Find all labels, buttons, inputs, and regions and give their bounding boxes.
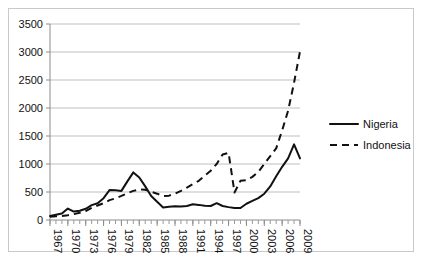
plot-area-wrapper: 0500100015002000250030003500196719701973…: [0, 0, 424, 267]
y-axis-tick-label: 3000: [19, 46, 43, 58]
chart-figure: 0500100015002000250030003500196719701973…: [0, 0, 424, 267]
x-axis-tick-label: 2006: [284, 229, 296, 253]
x-axis-tick-label: 2009: [302, 229, 314, 253]
x-axis-tick-label: 1982: [141, 229, 153, 253]
x-axis-tick-label: 1994: [213, 229, 225, 253]
x-axis-tick-label: 1979: [123, 229, 135, 253]
y-axis-tick-label: 3500: [19, 18, 43, 30]
x-axis-tick-label: 1973: [88, 229, 100, 253]
x-axis-tick-label: 1970: [70, 229, 82, 253]
x-axis-tick-label: 1988: [177, 229, 189, 253]
x-axis-tick-label: 1997: [231, 229, 243, 253]
x-axis-tick-label: 1985: [159, 229, 171, 253]
x-axis-tick-label: 2003: [266, 229, 278, 253]
x-axis-tick-label: 1967: [52, 229, 64, 253]
y-axis-tick-label: 500: [25, 186, 43, 198]
y-axis-tick-label: 2000: [19, 102, 43, 114]
y-axis-tick-label: 1000: [19, 158, 43, 170]
x-axis-tick-label: 1991: [195, 229, 207, 253]
line-chart: 0500100015002000250030003500196719701973…: [0, 0, 424, 267]
y-axis-tick-label: 2500: [19, 74, 43, 86]
y-axis-tick-label: 0: [37, 214, 43, 226]
y-axis-tick-label: 1500: [19, 130, 43, 142]
x-axis-tick-label: 2000: [248, 229, 260, 253]
series-line-nigeria: [50, 144, 300, 216]
x-axis-tick-label: 1976: [106, 229, 118, 253]
legend-label-nigeria: Nigeria: [363, 118, 399, 130]
legend-label-indonesia: Indonesia: [363, 139, 412, 151]
